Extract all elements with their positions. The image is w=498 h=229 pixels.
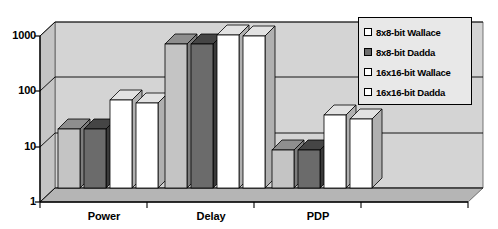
- x-axis-label-delay: Delay: [169, 211, 253, 222]
- bar-front: [272, 150, 294, 188]
- bar-front: [243, 36, 265, 188]
- bar-front: [191, 44, 213, 188]
- bar-front: [84, 129, 106, 188]
- bar-front: [217, 35, 239, 188]
- plot-floor: [40, 188, 483, 202]
- legend-swatch-icon: [364, 28, 372, 36]
- y-axis-tick-1: 1: [0, 196, 36, 208]
- bar-front: [298, 150, 320, 188]
- legend-item-16x16-dadda: 16x16-bit Dadda: [364, 82, 467, 102]
- bar-power-16x16-dadda: [136, 93, 168, 188]
- y-axis-tick-1000: 1000: [0, 30, 36, 42]
- legend-item-label: 8x8-bit Dadda: [376, 47, 435, 58]
- legend-swatch-icon: [364, 88, 372, 96]
- bar-front: [58, 129, 80, 188]
- bar-side: [372, 109, 382, 188]
- legend-swatch-icon: [364, 48, 372, 56]
- bar-front: [324, 115, 346, 188]
- legend-item-label: 8x8-bit Wallace: [376, 27, 441, 38]
- x-axis-label-pdp: PDP: [276, 211, 360, 222]
- legend-item-8x8-dadda: 8x8-bit Dadda: [364, 42, 467, 62]
- bar-pdp-16x16-dadda: [350, 109, 382, 188]
- y-tick-label: 1000: [0, 30, 36, 41]
- x-axis-label-power: Power: [62, 211, 146, 222]
- legend-item-label: 16x16-bit Wallace: [376, 67, 451, 78]
- bar-front: [165, 44, 187, 188]
- y-axis-tick-100: 100: [0, 85, 36, 97]
- legend-swatch-icon: [364, 68, 372, 76]
- y-tick-label: 10: [0, 141, 36, 152]
- bar-chart: 1000 100 10 1 Power Delay PDP 8x8-bit Wa…: [0, 0, 498, 229]
- y-axis-tick-10: 10: [0, 141, 36, 153]
- bar-front: [136, 103, 158, 188]
- legend-item-label: 16x16-bit Dadda: [376, 87, 445, 98]
- plot-left-wall: [40, 22, 55, 202]
- bar-front: [350, 119, 372, 188]
- bar-front: [110, 100, 132, 188]
- chart-legend: 8x8-bit Wallace 8x8-bit Dadda 16x16-bit …: [358, 17, 472, 105]
- y-tick-label: 100: [0, 85, 36, 96]
- y-tick-label: 1: [0, 196, 36, 207]
- legend-item-16x16-wallace: 16x16-bit Wallace: [364, 62, 467, 82]
- legend-item-8x8-wallace: 8x8-bit Wallace: [364, 22, 467, 42]
- bar-delay-16x16-dadda: [243, 26, 275, 188]
